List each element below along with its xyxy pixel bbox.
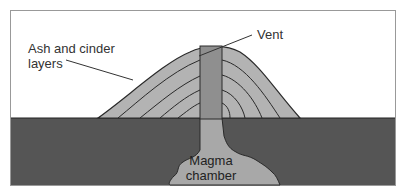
label-magma-chamber: Magma chamber	[181, 153, 241, 183]
label-magma-line1: Magma	[181, 153, 241, 168]
label-ash-cinder-line2: layers	[28, 56, 115, 71]
label-magma-line2: chamber	[181, 168, 241, 183]
vent	[200, 46, 222, 119]
label-ash-cinder-line1: Ash and cinder	[28, 41, 115, 56]
label-vent: Vent	[257, 27, 283, 42]
label-ash-cinder: Ash and cinder layers	[28, 41, 115, 71]
